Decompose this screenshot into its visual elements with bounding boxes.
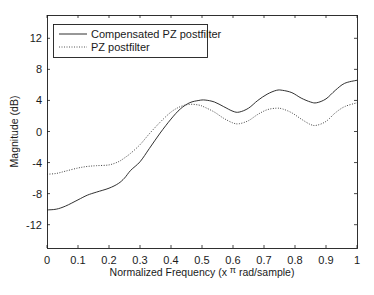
x-tick-label: 0.9 xyxy=(318,254,333,266)
y-tick-label: -8 xyxy=(32,188,42,200)
x-tick-label: 0.7 xyxy=(256,254,271,266)
y-axis-label: Magnitude (dB) xyxy=(8,96,20,168)
y-tick-label: -12 xyxy=(26,219,42,231)
legend-entry-label: Compensated PZ postfilter xyxy=(91,28,222,40)
magnitude-response-chart: 00.10.20.30.40.50.60.70.80.91 12840-4-8-… xyxy=(0,0,374,295)
x-tick-label: 0.1 xyxy=(70,254,85,266)
x-axis-label: Normalized Frequency (x π rad/sample) xyxy=(110,265,295,278)
x-tick-label: 0.4 xyxy=(163,254,178,266)
legend-entry-label: PZ postfilter xyxy=(91,41,150,53)
y-tick-label: 8 xyxy=(36,63,42,75)
x-tick-label: 1 xyxy=(354,254,360,266)
legend: Compensated PZ postfilterPZ postfilter xyxy=(54,25,222,58)
x-tick-label: 0 xyxy=(44,254,50,266)
y-tick-label: -4 xyxy=(32,157,42,169)
x-tick-label: 0.5 xyxy=(194,254,209,266)
x-tick-label: 0.8 xyxy=(287,254,302,266)
x-tick-label: 0.3 xyxy=(132,254,147,266)
x-tick-label: 0.2 xyxy=(101,254,116,266)
y-tick-label: 0 xyxy=(36,126,42,138)
y-tick-label: 12 xyxy=(30,32,42,44)
y-tick-label: 4 xyxy=(36,94,42,106)
